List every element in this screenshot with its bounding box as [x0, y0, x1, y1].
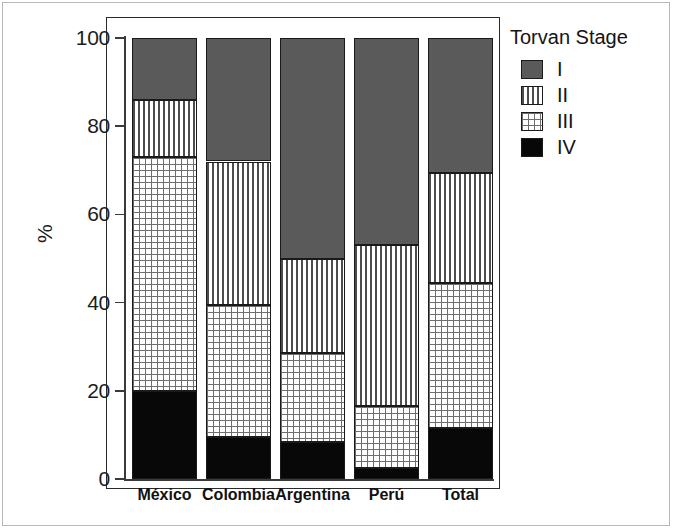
bar-segment-stage-i[interactable]	[280, 38, 345, 259]
legend: Torvan Stage IIIIIIIV	[510, 26, 660, 160]
legend-item-stage-iv[interactable]: IV	[521, 134, 660, 160]
x-axis-tick-label: Total	[414, 486, 507, 504]
bar-segment-stage-iv[interactable]	[132, 391, 197, 479]
bar-stack[interactable]	[280, 38, 345, 479]
bar-segment-stage-i[interactable]	[206, 38, 271, 161]
bar-segment-stage-iii[interactable]	[428, 283, 493, 429]
bar-segment-stage-iii[interactable]	[206, 305, 271, 437]
bar-stack[interactable]	[206, 38, 271, 479]
bar-segment-stage-iv[interactable]	[280, 442, 345, 479]
bar-segment-stage-ii[interactable]	[354, 245, 419, 406]
bar-segment-stage-i[interactable]	[354, 38, 419, 245]
legend-item-label: I	[557, 59, 563, 79]
bar-segment-stage-iii[interactable]	[280, 353, 345, 441]
legend-swatch-icon	[521, 86, 543, 105]
figure-canvas: 020406080100 % MéxicoColombiaArgentinaPe…	[0, 0, 674, 530]
bar-segment-stage-ii[interactable]	[206, 162, 271, 305]
legend-item-label: II	[557, 85, 568, 105]
bar-segment-stage-iv[interactable]	[354, 468, 419, 479]
bar-stack[interactable]	[428, 38, 493, 479]
legend-item-stage-ii[interactable]: II	[521, 82, 660, 108]
legend-swatch-icon	[521, 112, 543, 131]
legend-swatch-icon	[521, 60, 543, 79]
legend-title: Torvan Stage	[510, 26, 660, 48]
bar-segment-stage-iv[interactable]	[428, 428, 493, 479]
bar-segment-stage-ii[interactable]	[132, 100, 197, 157]
bar-stack[interactable]	[132, 38, 197, 479]
bar-segment-stage-i[interactable]	[428, 38, 493, 173]
bar-segment-stage-iii[interactable]	[354, 406, 419, 468]
legend-item-label: IV	[557, 137, 576, 157]
legend-item-stage-i[interactable]: I	[521, 56, 660, 82]
bar-segment-stage-i[interactable]	[132, 38, 197, 100]
legend-swatch-icon	[521, 138, 543, 157]
bar-segment-stage-iii[interactable]	[132, 157, 197, 391]
bar-segment-stage-iv[interactable]	[206, 437, 271, 479]
legend-items: IIIIIIIV	[510, 56, 660, 160]
bar-segment-stage-ii[interactable]	[428, 173, 493, 283]
bar-stack[interactable]	[354, 38, 419, 479]
legend-item-stage-iii[interactable]: III	[521, 108, 660, 134]
legend-item-label: III	[557, 111, 574, 131]
bar-segment-stage-ii[interactable]	[280, 259, 345, 354]
